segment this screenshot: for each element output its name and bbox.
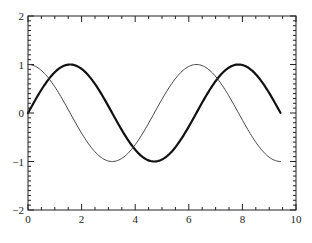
- chart-series: [28, 65, 280, 162]
- x-tick-label: 8: [240, 213, 246, 225]
- y-tick-label: −2: [12, 204, 24, 216]
- x-tick-label: 10: [291, 213, 303, 225]
- x-tick-label: 4: [132, 213, 138, 225]
- y-tick-label: −1: [12, 156, 24, 168]
- y-tick-label: 0: [19, 107, 25, 119]
- x-tick-label: 2: [79, 213, 85, 225]
- line-chart: 0246810−2−1012: [0, 0, 312, 243]
- x-tick-label: 6: [186, 213, 192, 225]
- y-tick-label: 1: [19, 59, 25, 71]
- axis-tick-labels: 0246810−2−1012: [12, 10, 302, 225]
- series-line-cos: [28, 65, 280, 162]
- axis-ticks: [28, 16, 296, 210]
- y-tick-label: 2: [19, 10, 25, 22]
- x-tick-label: 0: [25, 213, 31, 225]
- plot-frame: [28, 16, 296, 210]
